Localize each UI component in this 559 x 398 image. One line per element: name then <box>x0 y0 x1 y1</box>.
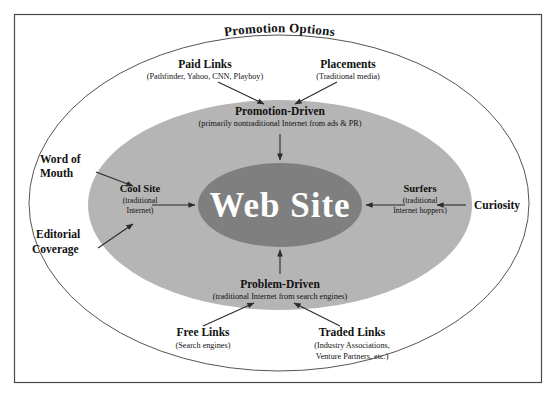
label-surfers: Surfers <box>403 183 436 194</box>
label-promotion-driven: Promotion-Driven <box>235 105 325 117</box>
label-problem-driven: Problem-Driven <box>240 278 320 290</box>
label-surfers-sub-2: Internet hoppers) <box>393 206 447 215</box>
label-editorial-coverage-line1: Editorial <box>36 228 80 240</box>
label-cool-site-sub-1: (traditional <box>123 196 158 205</box>
label-traded-links: Traded Links <box>319 326 386 338</box>
label-free-links-sub: (Search engines) <box>176 341 231 350</box>
label-web-site-center: Web Site <box>209 186 350 225</box>
label-cool-site-sub-2: Internet) <box>127 206 154 215</box>
label-cool-site: Cool Site <box>120 183 161 194</box>
label-problem-driven-sub: (traditional Internet from search engine… <box>213 292 348 301</box>
label-promotion-driven-sub: (primarily nontraditional Internet from … <box>199 119 362 128</box>
promotion-options-diagram: Promotion Options Paid Links (Pathfinder… <box>0 0 559 398</box>
label-word-of-mouth-line2: Mouth <box>40 167 74 179</box>
label-placements: Placements <box>320 58 376 70</box>
label-paid-links-sub: (Pathfinder, Yahoo, CNN, Playboy) <box>147 72 264 81</box>
label-free-links: Free Links <box>176 326 230 338</box>
diagram-canvas: Promotion Options Paid Links (Pathfinder… <box>0 0 559 398</box>
label-traded-links-sub-2: Venture Partners, etc.) <box>316 352 389 361</box>
label-word-of-mouth-line1: Word of <box>40 153 81 165</box>
label-traded-links-sub-1: (Industry Associations, <box>314 341 390 350</box>
label-paid-links: Paid Links <box>178 58 232 70</box>
label-curiosity: Curiosity <box>474 199 520 212</box>
label-surfers-sub-1: (traditional <box>403 196 438 205</box>
label-editorial-coverage-line2: Coverage <box>32 243 79 256</box>
label-placements-sub: (Traditional media) <box>316 72 380 81</box>
